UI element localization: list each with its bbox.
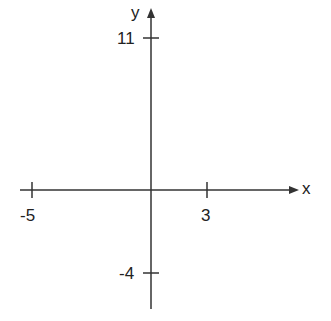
x-tick-label-neg5: -5 bbox=[20, 207, 35, 224]
coordinate-plane: x y -5 3 11 -4 bbox=[0, 0, 331, 321]
y-axis-label: y bbox=[131, 4, 140, 21]
x-axis-label: x bbox=[302, 180, 311, 197]
axes-graphic bbox=[0, 0, 331, 321]
x-axis-arrow-icon bbox=[289, 186, 299, 194]
x-tick-label-3: 3 bbox=[201, 207, 210, 224]
y-tick-label-11: 11 bbox=[117, 30, 135, 47]
y-tick-label-neg4: -4 bbox=[119, 265, 134, 282]
y-axis-arrow-icon bbox=[147, 8, 155, 18]
